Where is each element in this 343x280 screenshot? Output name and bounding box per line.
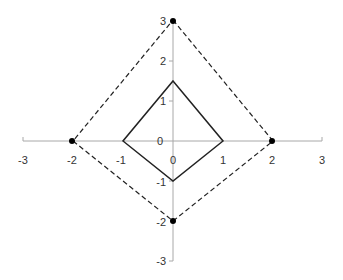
x-tick-labels: -3 -2 -1 0 1 2 3 — [18, 154, 325, 166]
coordinate-diagram: -3 -2 -1 0 1 2 3 3 2 1 0 -1 -2 -3 — [0, 0, 343, 280]
x-label: 2 — [269, 154, 275, 166]
y-label: 3 — [160, 15, 166, 27]
y-label: 1 — [160, 95, 166, 107]
y-label: 0 — [157, 135, 163, 147]
x-label: 3 — [319, 154, 325, 166]
point-0-3 — [170, 18, 176, 24]
x-label: -1 — [116, 154, 126, 166]
y-label: 2 — [160, 55, 166, 67]
point-0-neg2 — [170, 218, 176, 224]
x-label: -2 — [67, 154, 77, 166]
y-label: -2 — [156, 216, 166, 228]
point-neg2-0 — [69, 138, 75, 144]
y-label: -1 — [156, 176, 166, 188]
points — [69, 18, 275, 224]
y-label: -3 — [156, 255, 166, 267]
x-label: 0 — [170, 154, 176, 166]
x-label: -3 — [18, 154, 28, 166]
x-label: 1 — [220, 154, 226, 166]
axes — [23, 20, 322, 261]
point-2-0 — [269, 138, 275, 144]
